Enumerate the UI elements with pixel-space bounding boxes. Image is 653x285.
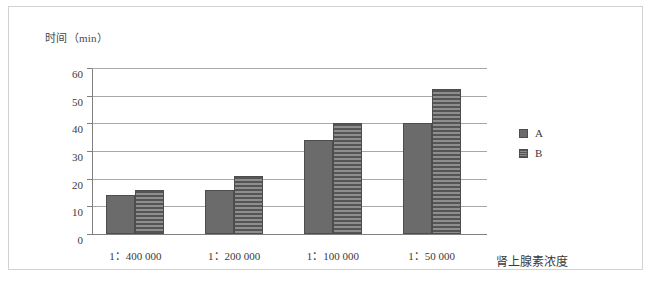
bar-group bbox=[388, 68, 487, 234]
bar-b bbox=[234, 176, 263, 234]
bar-b bbox=[135, 190, 164, 234]
chart-legend: AB bbox=[519, 123, 543, 163]
x-category-label: 1：50 000 bbox=[408, 247, 455, 263]
bar-b bbox=[333, 123, 362, 234]
legend-item-b: B bbox=[519, 143, 543, 163]
bar-a bbox=[205, 190, 234, 234]
y-axis-title: 时间（min） bbox=[45, 29, 108, 45]
bar-a bbox=[304, 140, 333, 234]
bar-group bbox=[290, 68, 389, 234]
legend-label: B bbox=[535, 147, 542, 159]
bar-b bbox=[432, 89, 461, 234]
chart-frame: 时间（min） 0102030405060 1：400 0001：200 000… bbox=[8, 6, 643, 270]
plot-area: 0102030405060 1：400 0001：200 0001：100 00… bbox=[92, 69, 487, 235]
bar-group bbox=[191, 68, 290, 234]
bar-a bbox=[106, 195, 135, 234]
legend-item-a: A bbox=[519, 123, 543, 143]
x-category-label: 1：100 000 bbox=[307, 247, 359, 263]
legend-label: A bbox=[535, 127, 543, 139]
x-category-label: 1：200 000 bbox=[208, 247, 260, 263]
bar-a bbox=[403, 123, 432, 234]
bar-group bbox=[92, 68, 191, 234]
x-axis-title: 肾上腺素浓度 bbox=[496, 252, 568, 270]
x-category-label: 1：400 000 bbox=[109, 247, 161, 263]
x-axis-line bbox=[92, 234, 487, 235]
legend-swatch-b bbox=[519, 149, 528, 158]
legend-swatch-a bbox=[519, 129, 528, 138]
